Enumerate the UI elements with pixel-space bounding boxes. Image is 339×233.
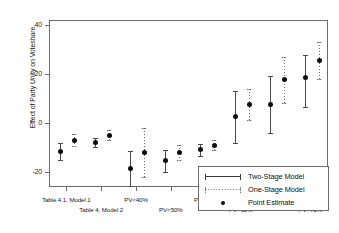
point-estimate-marker (58, 149, 63, 154)
y-axis-tick-label: 20 (16, 70, 42, 77)
error-bar-cap (247, 89, 252, 90)
error-bar-cap (72, 134, 77, 135)
error-bar-cap (268, 76, 273, 77)
error-bar-cap (303, 107, 308, 108)
error-bar-cap (142, 128, 147, 129)
error-bar-cap (107, 130, 112, 131)
legend-label-two-stage: Two-Stage Model (243, 172, 304, 181)
point-estimate-marker (198, 147, 203, 152)
legend-item-point-estimate: Point Estimate (203, 196, 324, 209)
point-estimate-marker (282, 77, 287, 82)
error-bar-cap (198, 156, 203, 157)
x-axis-tick-mark (171, 187, 172, 191)
error-bar-cap (233, 91, 238, 92)
error-bar-cap (212, 140, 217, 141)
error-bar-cap (128, 151, 133, 152)
point-estimate-marker (107, 133, 112, 138)
error-bar-cap (93, 147, 98, 148)
error-bar-cap (282, 103, 287, 104)
point-estimate-marker (212, 143, 217, 148)
dotted-line-icon (203, 184, 243, 195)
error-bar-cap (177, 160, 182, 161)
error-bar-cap (317, 79, 322, 80)
filled-circle-icon (203, 197, 243, 208)
chart-legend: Two-Stage Model One-Stage Model Point Es… (198, 166, 329, 211)
point-estimate-marker (163, 158, 168, 163)
error-bar-cap (247, 120, 252, 121)
x-axis-tick-label: PV<50% (159, 206, 183, 213)
solid-line-icon (203, 171, 243, 182)
error-bar-cap (163, 150, 168, 151)
point-estimate-marker (177, 150, 182, 155)
legend-label-point-estimate: Point Estimate (243, 198, 294, 207)
x-axis-tick-mark (101, 187, 102, 191)
error-bar-cap (128, 186, 133, 187)
point-estimate-marker (93, 140, 98, 145)
point-estimate-marker (142, 150, 147, 155)
error-bar-cap (107, 140, 112, 141)
error-bar-cap (317, 42, 322, 43)
error-bar-cap (233, 143, 238, 144)
y-axis-tick-label: 0 (16, 119, 42, 126)
x-axis-tick-label: Table 4.1, Model 1 (42, 196, 91, 203)
error-bar-cap (58, 160, 63, 161)
legend-label-one-stage: One-Stage Model (243, 185, 304, 194)
point-estimate-marker (317, 58, 322, 63)
error-bar-cap (282, 57, 287, 58)
y-axis-tick-label: 40 (16, 21, 42, 28)
x-axis-tick-label: Table 4, Model 2 (79, 206, 123, 213)
point-estimate-marker (268, 102, 273, 107)
legend-item-one-stage: One-Stage Model (203, 183, 324, 196)
error-bar-cap (93, 138, 98, 139)
y-axis-tick-label: -20 (16, 168, 42, 175)
error-bar-cap (142, 177, 147, 178)
error-bar-cap (72, 146, 77, 147)
error-bar-cap (212, 150, 217, 151)
error-bar-cap (303, 55, 308, 56)
legend-item-two-stage: Two-Stage Model (203, 170, 324, 183)
plot-area (49, 20, 328, 187)
point-estimate-marker (233, 114, 238, 119)
error-bar-cap (268, 133, 273, 134)
x-axis-tick-mark (136, 187, 137, 191)
confidence-interval-line (305, 55, 306, 107)
point-estimate-marker (72, 138, 77, 143)
chart-figure: Effect of Party Unity on Voteshare 40200… (0, 0, 339, 233)
x-axis-tick-mark (66, 187, 67, 191)
point-estimate-marker (247, 102, 252, 107)
error-bar-cap (163, 172, 168, 173)
point-estimate-marker (128, 166, 133, 171)
point-estimate-marker (303, 75, 308, 80)
error-bar-cap (177, 145, 182, 146)
error-bar-cap (198, 144, 203, 145)
x-axis-tick-label: PV<40% (124, 196, 148, 203)
data-series-layer (50, 21, 327, 186)
error-bar-cap (58, 143, 63, 144)
